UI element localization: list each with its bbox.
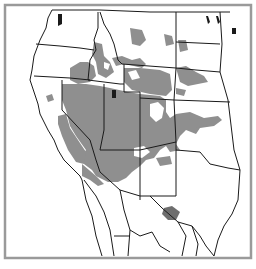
lake-of-the-woods	[232, 28, 236, 34]
great-salt-lake	[112, 90, 116, 98]
western-us-map	[0, 0, 256, 269]
puget-sound	[58, 14, 62, 26]
